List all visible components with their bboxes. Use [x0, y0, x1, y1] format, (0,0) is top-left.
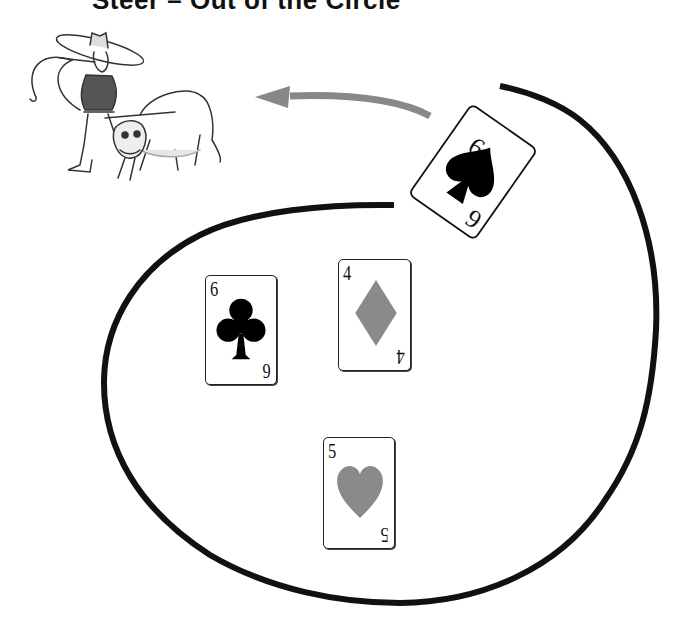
club-icon: [214, 294, 268, 364]
card-rank: 4: [343, 262, 351, 284]
card-4-diamonds: 4 4: [338, 259, 411, 371]
arrow-left-icon: [255, 86, 430, 116]
card-6-clubs: 6 6: [205, 275, 277, 385]
heart-icon: [336, 466, 384, 518]
cowboy-steer-illustration: [30, 29, 221, 180]
card-6-spades: 6 6: [409, 104, 538, 240]
diamond-icon: [355, 280, 397, 346]
card-rank: 4: [396, 346, 404, 368]
card-5-hearts: 5 5: [323, 437, 395, 549]
card-rank: 5: [380, 524, 388, 546]
card-rank: 5: [328, 440, 336, 462]
